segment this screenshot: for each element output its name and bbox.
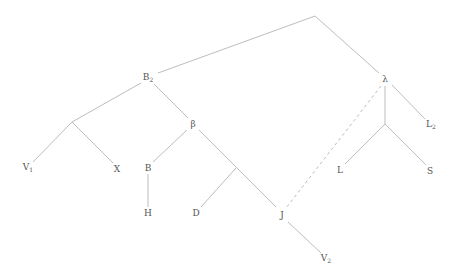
- tree-diagram: B2 λ L2 V1 X β B H D J V2 L S: [0, 0, 455, 280]
- node-v1-subscript: 1: [29, 166, 33, 173]
- node-v1: V1: [23, 163, 33, 173]
- edge-lambda-junction-l: [345, 124, 385, 164]
- node-beta-label: β: [190, 119, 195, 129]
- node-beta: β: [190, 120, 195, 129]
- node-l2: L2: [426, 120, 436, 130]
- edge-beta-j: [199, 130, 276, 207]
- edge-beta-b: [153, 130, 187, 162]
- node-b2: B2: [143, 73, 153, 83]
- node-j-label: J: [280, 210, 284, 220]
- node-d: D: [192, 209, 199, 218]
- node-b-label: B: [145, 163, 152, 173]
- node-l-label: L: [337, 165, 343, 175]
- edge-left-junction-x: [72, 122, 113, 163]
- node-x-label: X: [114, 164, 120, 174]
- node-l: L: [337, 166, 343, 175]
- edge-left-junction-v1: [33, 122, 72, 162]
- tree-edges: [0, 0, 455, 280]
- edge-b2-beta: [154, 84, 188, 118]
- node-v2-subscript: 2: [327, 257, 331, 264]
- edge-lambda-l2: [392, 85, 425, 119]
- node-b2-subscript: 2: [149, 76, 153, 83]
- edge-mid-junction-d: [201, 168, 236, 207]
- edge-root-lambda: [315, 16, 379, 73]
- node-v2: V2: [321, 254, 331, 264]
- node-lambda: λ: [382, 75, 388, 84]
- edge-j-v2: [288, 222, 321, 253]
- node-b: B: [145, 164, 152, 173]
- node-b2-label: B: [143, 72, 150, 82]
- edge-b2-left-junction: [72, 83, 141, 122]
- edge-lambda-junction-s: [385, 124, 426, 165]
- node-d-label: D: [192, 208, 199, 218]
- edge-lambda-j-dashed: [286, 86, 381, 208]
- node-lambda-label: λ: [382, 74, 388, 84]
- node-h-label: H: [144, 208, 152, 218]
- node-s: S: [427, 167, 433, 176]
- node-x: X: [114, 165, 120, 174]
- node-h: H: [144, 209, 152, 218]
- edge-root-b2: [158, 16, 315, 73]
- node-s-label: S: [427, 166, 433, 176]
- node-j: J: [280, 211, 284, 220]
- node-l2-subscript: 2: [432, 123, 436, 130]
